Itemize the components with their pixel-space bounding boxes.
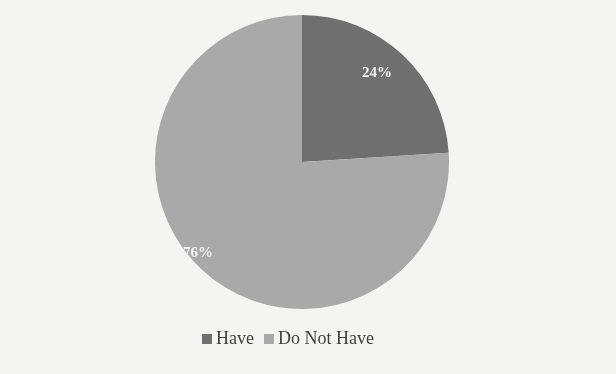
chart-legend: Have Do Not Have (202, 328, 374, 349)
legend-swatch-do-not-have (264, 334, 274, 344)
legend-item-have: Have (202, 328, 254, 349)
slice-label-do-not-have: 76% (183, 244, 213, 261)
legend-swatch-have (202, 334, 212, 344)
slice-label-have: 24% (362, 64, 392, 81)
legend-label-have: Have (216, 328, 254, 349)
pie-chart (0, 0, 616, 374)
legend-label-do-not-have: Do Not Have (278, 328, 374, 349)
legend-item-do-not-have: Do Not Have (264, 328, 374, 349)
pie-slice-have (302, 15, 449, 162)
